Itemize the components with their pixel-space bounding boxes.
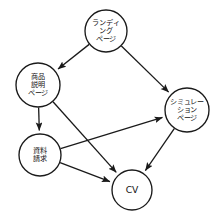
cv-node-label-line-1: CV	[126, 184, 139, 195]
cv-node[interactable]: CV	[112, 170, 152, 210]
product-description-page-node[interactable]: 商品説明ページ	[16, 63, 60, 107]
document-request-node-label-line-2: 請求	[33, 154, 47, 163]
document-request-node[interactable]: 資料請求	[19, 134, 61, 176]
product-description-page-node-label-line-3: ページ	[28, 88, 49, 97]
nodes-layer: ランディングページ商品説明ページシミュレーションページ資料請求CV	[16, 10, 209, 210]
landing-page-node-label-line-3: ページ	[96, 34, 117, 43]
edge-product-to-cv	[53, 102, 116, 173]
edge-request-to-simulation	[61, 117, 163, 148]
edge-request-to-cv	[60, 163, 110, 182]
landing-page-node[interactable]: ランディングページ	[85, 10, 127, 52]
edge-product-to-request	[39, 107, 40, 130]
flow-diagram-canvas: ランディングページ商品説明ページシミュレーションページ資料請求CV	[0, 0, 221, 223]
edge-simulation-to-cv	[145, 129, 174, 171]
simulation-page-node-label-line-3: ページ	[177, 113, 198, 122]
flow-diagram: ランディングページ商品説明ページシミュレーションページ資料請求CV	[0, 0, 221, 223]
simulation-page-node[interactable]: シミュレーションページ	[165, 88, 209, 132]
edge-landing-to-product	[58, 44, 89, 69]
edge-landing-to-simulation	[121, 46, 168, 92]
